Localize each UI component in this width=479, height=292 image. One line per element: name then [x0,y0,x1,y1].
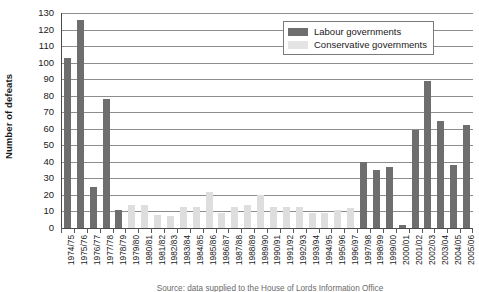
bar [463,125,470,228]
bar [128,205,135,228]
x-axis-category-label: 1999/00 [383,235,396,281]
x-axis-category-label: 2001/02 [409,235,422,281]
x-axis-tick [74,228,87,233]
bar [450,165,457,228]
bar-slot [216,13,229,228]
bar-slot [113,13,126,228]
bar-slot [177,13,190,228]
x-axis-category-label: 1982/83 [164,235,177,281]
bar [103,99,110,228]
x-axis-category-label: 1994/95 [319,235,332,281]
y-axis-tick-labels: 0102030405060708090100110120130 [18,0,58,241]
x-axis-tick [306,228,319,233]
bar [244,205,251,228]
x-axis-category-label: 1978/79 [113,235,126,281]
x-axis-category-label: 1985/86 [203,235,216,281]
x-axis-category-label: 1995/96 [331,235,344,281]
y-axis-tick-label: 70 [43,107,54,117]
x-axis-tick [241,228,254,233]
x-axis-category-label: 2000/01 [396,235,409,281]
x-axis-tick [383,228,396,233]
bar-slot [228,13,241,228]
x-axis-category-label: 1975/76 [74,235,87,281]
x-axis-category-label: 2005/06 [460,235,473,281]
x-axis-tick [409,228,422,233]
x-axis-category-label: 1988/89 [241,235,254,281]
bar-slot [190,13,203,228]
source-caption: Source: data supplied to the House of Lo… [61,284,479,292]
y-axis-tick-label: 0 [49,223,54,233]
bar [154,215,161,228]
x-axis-tick [228,228,241,233]
x-axis-tick [460,228,473,233]
bar [180,207,187,229]
bar [270,207,277,229]
bar-slot [151,13,164,228]
x-axis-category-label: 1979/80 [125,235,138,281]
x-axis-tick [357,228,370,233]
x-axis-category-label: 1993/94 [306,235,319,281]
bar [386,167,393,228]
y-axis-tick-label: 10 [43,207,54,217]
bar [206,192,213,228]
bar [412,130,419,228]
bar [373,170,380,228]
bar [167,216,174,228]
bar-slot [460,13,473,228]
y-axis-tick-label: 130 [38,8,54,18]
x-axis-category-label: 1996/97 [344,235,357,281]
y-axis-tick-label: 100 [38,58,54,68]
x-axis-tick [254,228,267,233]
x-axis-category-label: 1997/98 [357,235,370,281]
x-axis-category-text: 2005/06 [467,235,475,265]
legend-item: Labour governments [288,25,427,38]
bar [218,213,225,228]
bar [424,81,431,228]
legend: Labour governmentsConservative governmen… [283,21,434,55]
bar-slot [164,13,177,228]
legend-swatch [288,28,308,36]
x-axis-tick [177,228,190,233]
x-axis-category-label: 1990/91 [267,235,280,281]
x-axis-category-label: 1989/90 [254,235,267,281]
bar [437,121,444,229]
x-axis-category-label: 1983/84 [177,235,190,281]
y-axis-line [61,13,62,228]
y-axis-tick-label: 90 [43,74,54,84]
bar [296,207,303,229]
y-axis-tick-label: 20 [43,190,54,200]
bar [231,207,238,229]
bar-slot [254,13,267,228]
x-axis-tick [280,228,293,233]
legend-label: Labour governments [314,27,401,37]
x-axis-tick [164,228,177,233]
bar [309,213,316,228]
x-axis-tick [113,228,126,233]
bar-slot [138,13,151,228]
x-axis-category-label: 2004/05 [447,235,460,281]
legend-label: Conservative governments [314,40,427,50]
x-axis-category-labels: 1974/751975/761976/771977/781978/791979/… [61,235,473,281]
x-axis-tick [434,228,447,233]
x-axis-tick [396,228,409,233]
x-axis-tick [151,228,164,233]
bar-slot [241,13,254,228]
x-axis-category-label: 1992/93 [293,235,306,281]
legend-item: Conservative governments [288,38,427,51]
x-axis-category-label: 1974/75 [61,235,74,281]
x-axis-category-label: 1977/78 [100,235,113,281]
y-axis-tick-label: 110 [39,41,54,51]
x-axis-tick [87,228,100,233]
x-axis-category-label: 1984/85 [190,235,203,281]
x-axis-tick [190,228,203,233]
x-axis-tick [344,228,357,233]
y-axis-tick-label: 60 [43,124,54,134]
bar-slot [87,13,100,228]
x-axis-category-label: 1980/81 [138,235,151,281]
y-axis-tick-label: 80 [43,91,54,101]
x-axis-tick [331,228,344,233]
bar [334,210,341,228]
x-axis-tick [216,228,229,233]
bar [64,58,71,228]
x-axis-category-label: 1976/77 [87,235,100,281]
